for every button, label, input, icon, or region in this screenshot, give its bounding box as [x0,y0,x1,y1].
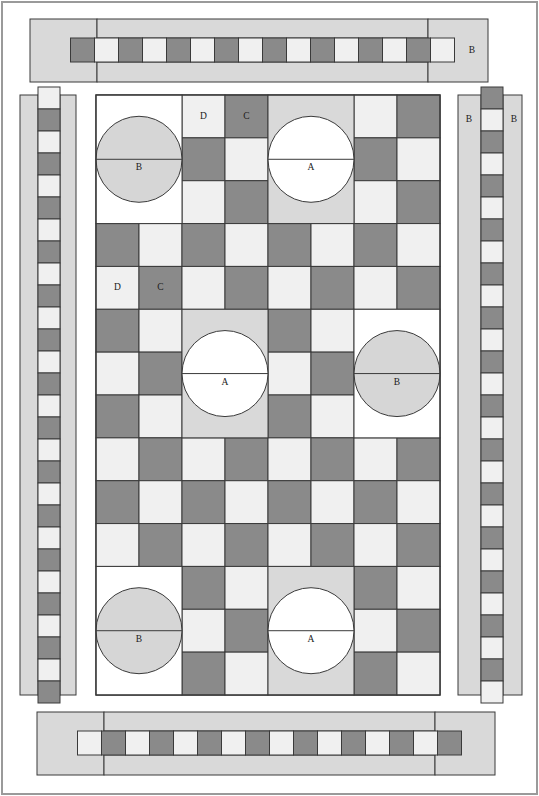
left-side-panel-square-19 [38,505,60,527]
grid-cell-r4-c2 [182,266,225,309]
top-border-panel-square-3 [143,38,167,62]
top-border-panel-square-15 [431,38,455,62]
grid-cell-r3-c1 [139,224,182,267]
grid-cell-r7-c1 [139,395,182,438]
block-a-middle-label: A [222,377,229,387]
left-side-panel-square-22 [38,571,60,593]
grid-cell-r7-c5 [311,395,354,438]
grid-cell-r13-c2 [182,652,225,695]
grid-cell-r9-c5 [311,481,354,524]
right-side-panel-square-6 [481,219,503,241]
top-border-panel-square-14 [407,38,431,62]
right-side-panel-square-5 [481,197,503,219]
grid-cell-r9-c4 [268,481,311,524]
grid-cell-r6-c1 [139,352,182,395]
left-side-panel-square-14 [38,395,60,417]
right-side-panel-square-3 [481,153,503,175]
grid-cell-r8-c7 [397,438,440,481]
left-side-panel-square-27 [38,681,60,703]
grid-cell-r4-c7 [397,266,440,309]
left-side-panel-square-8 [38,263,60,285]
grid-cell-r5-c0 [96,309,139,352]
right-side-panel-square-12 [481,351,503,373]
top-border-panel-square-10 [311,38,335,62]
top-border-panel-square-4 [167,38,191,62]
right-side-panel-square-9 [481,285,503,307]
bottom-border-panel-square-2 [126,731,150,755]
left-side-panel-square-7 [38,241,60,263]
grid-cell-r9-c3 [225,481,268,524]
bottom-border-panel-square-1 [102,731,126,755]
top-border-panel-square-13 [383,38,407,62]
right-side-panel-square-4 [481,175,503,197]
grid-cell-r8-c5 [311,438,354,481]
bottom-border-panel-square-10 [318,731,342,755]
grid-cell-r8-c0 [96,438,139,481]
right-side-panel-square-11 [481,329,503,351]
left-side-panel-square-1 [38,109,60,131]
grid-cell-r11-c3 [225,566,268,609]
grid-cell-r10-c0 [96,524,139,567]
top-border-panel-label: B [469,45,475,55]
right-side-panel-square-10 [481,307,503,329]
right-side-panel-square-17 [481,461,503,483]
grid-cell-r1-c6 [354,138,397,181]
grid-cell-r2-c3 [225,181,268,224]
grid-cell-r0-c6 [354,95,397,138]
cell-label-d-2: D [114,282,121,292]
cell-label-c-3: C [157,282,163,292]
left-side-panel-square-21 [38,549,60,571]
left-panel-group [20,87,76,703]
grid-cell-r10-c5 [311,524,354,567]
block-b-bottom-label: B [136,634,142,644]
grid-cell-r9-c0 [96,481,139,524]
block-b-midright-label: B [394,377,400,387]
bottom-border-panel-square-7 [246,731,270,755]
left-side-panel-square-26 [38,659,60,681]
grid-cell-r9-c6 [354,481,397,524]
grid-cell-r5-c1 [139,309,182,352]
right-side-panel-square-0 [481,87,503,109]
left-side-panel-square-11 [38,329,60,351]
grid-cell-r12-c2 [182,609,225,652]
left-side-panel-square-15 [38,417,60,439]
right-side-panel-square-1 [481,109,503,131]
left-side-panel-square-0 [38,87,60,109]
left-side-panel-square-17 [38,461,60,483]
right-side-panel-square-15 [481,417,503,439]
grid-cell-r7-c0 [96,395,139,438]
grid-cell-r9-c2 [182,481,225,524]
grid-cell-r2-c2 [182,181,225,224]
grid-cell-r6-c4 [268,352,311,395]
right-side-panel-square-26 [481,659,503,681]
right-side-panel-square-21 [481,549,503,571]
top-border-panel-square-8 [263,38,287,62]
bottom-border-panel-square-0 [78,731,102,755]
grid-cell-r1-c2 [182,138,225,181]
grid-cell-r10-c2 [182,524,225,567]
right-side-panel-square-13 [481,373,503,395]
right-side-panel-square-24 [481,615,503,637]
left-side-panel-square-9 [38,285,60,307]
bottom-border-panel-square-12 [366,731,390,755]
top-border-panel-square-6 [215,38,239,62]
grid-cell-r10-c7 [397,524,440,567]
bottom-border-panel-square-4 [174,731,198,755]
quilt-layout-diagram: B BB BAABBADCDC [0,0,539,796]
block-a-bottom-label: A [308,634,315,644]
grid-cell-r8-c1 [139,438,182,481]
top-border-panel-square-2 [119,38,143,62]
right-side-panel-square-22 [481,571,503,593]
bottom-border-group [37,712,495,775]
right-side-panel-square-16 [481,439,503,461]
right-panel-group: BB [458,87,522,703]
grid-cell-r3-c2 [182,224,225,267]
bottom-border-panel-square-8 [270,731,294,755]
grid-cell-r3-c6 [354,224,397,267]
top-border-panel-square-1 [95,38,119,62]
block-a-topmid-label: A [308,162,315,172]
grid-cell-r7-c4 [268,395,311,438]
bottom-border-panel-square-5 [198,731,222,755]
block-b-topleft-label: B [136,162,142,172]
grid-cell-r12-c6 [354,609,397,652]
